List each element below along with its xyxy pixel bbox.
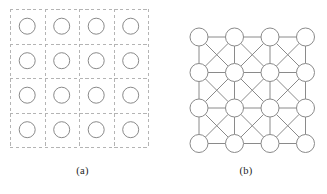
- node-circle-r0c3: [123, 18, 139, 34]
- node-circle-r2c3: [297, 99, 315, 117]
- panel-a: (a): [0, 0, 165, 194]
- node-circle-r0c1: [54, 18, 70, 34]
- node-group: [19, 18, 139, 138]
- node-circle-r1c2: [88, 53, 104, 69]
- node-circle-r2c1: [54, 87, 70, 103]
- figure-root: (a) (b): [0, 0, 327, 194]
- node-circle-r1c3: [297, 64, 315, 82]
- node-circle-r3c0: [190, 135, 208, 153]
- node-circle-r1c0: [190, 64, 208, 82]
- node-circle-r3c1: [226, 135, 244, 153]
- node-circle-r0c2: [88, 18, 104, 34]
- node-circle-r3c3: [297, 135, 315, 153]
- node-circle-r2c1: [226, 99, 244, 117]
- node-circle-r0c2: [261, 28, 279, 46]
- node-circle-r3c1: [54, 122, 70, 138]
- node-circle-r0c1: [226, 28, 244, 46]
- node-circle-r0c0: [19, 18, 35, 34]
- node-circle-r1c1: [54, 53, 70, 69]
- panel-b-canvas: [165, 0, 327, 160]
- panel-b: (b): [165, 0, 327, 194]
- node-circle-r2c0: [190, 99, 208, 117]
- panel-a-caption: (a): [0, 164, 165, 178]
- node-circle-r2c2: [261, 99, 279, 117]
- node-circle-r0c3: [297, 28, 315, 46]
- edge-group: [199, 37, 306, 144]
- node-circle-r1c1: [226, 64, 244, 82]
- panel-a-canvas: [0, 0, 165, 160]
- node-circle-r3c2: [261, 135, 279, 153]
- panel-b-caption: (b): [165, 164, 327, 178]
- node-circle-r1c3: [123, 53, 139, 69]
- node-circle-r3c3: [123, 122, 139, 138]
- node-circle-r0c0: [190, 28, 208, 46]
- node-circle-r1c2: [261, 64, 279, 82]
- node-circle-r2c3: [123, 87, 139, 103]
- node-circle-r1c0: [19, 53, 35, 69]
- node-circle-r3c0: [19, 122, 35, 138]
- node-circle-r2c2: [88, 87, 104, 103]
- node-circle-r3c2: [88, 122, 104, 138]
- node-circle-r2c0: [19, 87, 35, 103]
